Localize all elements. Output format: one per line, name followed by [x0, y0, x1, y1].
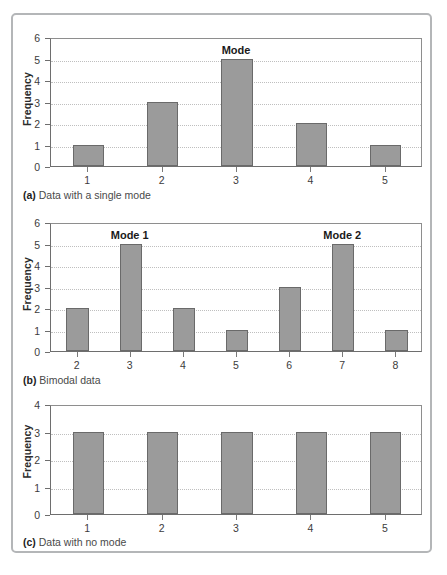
y-tick-mark — [45, 460, 50, 461]
x-tick-mark — [310, 515, 311, 520]
x-tick-label: 1 — [84, 522, 90, 534]
y-tick-label: 1 — [20, 325, 40, 337]
y-tick-mark — [45, 352, 50, 353]
x-tick-label: 7 — [339, 359, 345, 371]
x-tick-label: 3 — [127, 359, 133, 371]
bar — [296, 432, 327, 515]
y-tick-mark — [45, 38, 50, 39]
y-tick-mark — [45, 245, 50, 246]
bar — [120, 244, 142, 352]
x-tick-label: 4 — [307, 174, 313, 186]
gridline — [51, 310, 421, 311]
y-tick-label: 0 — [20, 509, 40, 521]
caption-text-b: Bimodal data — [36, 374, 100, 386]
y-tick-mark — [45, 331, 50, 332]
x-tick-mark — [87, 167, 88, 172]
chart-block-a: Frequency 012345612345Mode (a) Data with… — [13, 23, 430, 203]
x-tick-label: 4 — [307, 522, 313, 534]
x-tick-mark — [162, 515, 163, 520]
mode-annotation-label: Mode — [222, 44, 251, 56]
y-tick-mark — [45, 124, 50, 125]
y-tick-label: 1 — [20, 482, 40, 494]
bar — [279, 287, 301, 352]
x-tick-mark — [77, 352, 78, 357]
bar — [296, 123, 327, 166]
bar — [370, 432, 401, 515]
bar — [147, 432, 178, 515]
y-tick-label: 2 — [20, 454, 40, 466]
x-tick-label: 3 — [233, 174, 239, 186]
y-tick-label: 0 — [20, 161, 40, 173]
y-tick-label: 4 — [20, 75, 40, 87]
y-tick-mark — [45, 146, 50, 147]
bar — [226, 330, 248, 352]
mode-annotation-label: Mode 1 — [111, 229, 149, 241]
y-tick-mark — [45, 309, 50, 310]
x-tick-label: 5 — [382, 174, 388, 186]
x-tick-label: 5 — [233, 359, 239, 371]
chart-block-b: Frequency 01234562345678Mode 1Mode 2 (b)… — [13, 208, 430, 388]
x-tick-mark — [289, 352, 290, 357]
y-tick-mark — [45, 81, 50, 82]
y-tick-label: 3 — [20, 427, 40, 439]
x-tick-mark — [162, 167, 163, 172]
y-tick-label: 5 — [20, 239, 40, 251]
y-tick-mark — [45, 266, 50, 267]
y-tick-mark — [45, 103, 50, 104]
caption-marker-a: (a) — [23, 189, 36, 201]
y-tick-mark — [45, 488, 50, 489]
x-tick-mark — [236, 352, 237, 357]
caption-text-c: Data with no mode — [36, 536, 126, 548]
chart-block-c: Frequency 0123412345 (c) Data with no mo… — [13, 393, 430, 553]
x-tick-label: 1 — [84, 174, 90, 186]
bar — [221, 59, 252, 167]
x-tick-mark — [395, 352, 396, 357]
y-tick-label: 4 — [20, 260, 40, 272]
y-tick-label: 2 — [20, 303, 40, 315]
y-tick-label: 3 — [20, 97, 40, 109]
caption-text-a: Data with a single mode — [36, 189, 151, 201]
bar — [73, 145, 104, 167]
y-tick-label: 6 — [20, 32, 40, 44]
figure-panel: Frequency 012345612345Mode (a) Data with… — [11, 13, 432, 553]
x-tick-mark — [87, 515, 88, 520]
y-tick-mark — [45, 60, 50, 61]
y-tick-mark — [45, 288, 50, 289]
gridline — [51, 289, 421, 290]
y-tick-mark — [45, 223, 50, 224]
bar — [173, 308, 195, 351]
caption-a: (a) Data with a single mode — [23, 189, 151, 201]
x-tick-label: 2 — [159, 174, 165, 186]
gridline — [51, 267, 421, 268]
x-tick-mark — [236, 515, 237, 520]
bar — [370, 145, 401, 167]
bar — [147, 102, 178, 167]
caption-c: (c) Data with no mode — [23, 536, 126, 548]
caption-marker-b: (b) — [23, 374, 36, 386]
bar — [332, 244, 354, 352]
y-tick-label: 4 — [20, 399, 40, 411]
x-tick-mark — [130, 352, 131, 357]
y-tick-label: 2 — [20, 118, 40, 130]
x-tick-mark — [183, 352, 184, 357]
bar — [221, 432, 252, 515]
y-tick-mark — [45, 167, 50, 168]
x-tick-label: 2 — [159, 522, 165, 534]
y-tick-mark — [45, 405, 50, 406]
y-tick-label: 0 — [20, 346, 40, 358]
caption-b: (b) Bimodal data — [23, 374, 101, 386]
x-tick-label: 3 — [233, 522, 239, 534]
y-tick-label: 5 — [20, 54, 40, 66]
x-tick-mark — [342, 352, 343, 357]
x-tick-mark — [236, 167, 237, 172]
plot-area-a — [50, 38, 422, 167]
y-tick-mark — [45, 433, 50, 434]
gridline — [51, 246, 421, 247]
plot-area-b — [50, 223, 422, 352]
plot-area-c — [50, 405, 422, 515]
bar — [385, 330, 407, 352]
bar — [66, 308, 88, 351]
x-tick-label: 6 — [286, 359, 292, 371]
x-tick-label: 5 — [382, 522, 388, 534]
x-tick-mark — [385, 167, 386, 172]
